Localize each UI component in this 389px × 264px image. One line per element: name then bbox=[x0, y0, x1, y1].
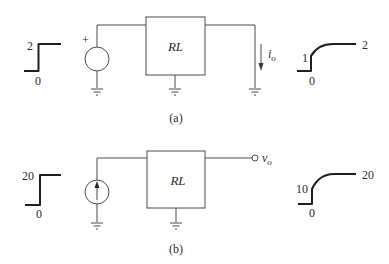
output-initial-label: 10 bbox=[296, 182, 308, 196]
output-final-label: 2 bbox=[362, 38, 368, 52]
input-high-label: 20 bbox=[22, 169, 34, 183]
input-high-label: 2 bbox=[27, 39, 33, 53]
ground-icon bbox=[249, 89, 261, 95]
output-final-label: 20 bbox=[362, 168, 374, 182]
output-zero-label: 0 bbox=[309, 74, 315, 88]
output-initial-label: 1 bbox=[302, 51, 308, 65]
output-waveform-b: 10 0 20 bbox=[296, 168, 374, 220]
input-low-label: 0 bbox=[35, 74, 41, 88]
current-arrow-icon bbox=[259, 44, 264, 71]
rl-block-label: RL bbox=[169, 173, 185, 188]
ground-icon bbox=[91, 89, 103, 95]
circuit-figure: 2 0 + RL bbox=[0, 0, 389, 264]
caption-b: (b) bbox=[169, 242, 183, 256]
arrow-up-icon bbox=[95, 181, 100, 188]
rl-block-label: RL bbox=[167, 39, 183, 54]
ground-icon bbox=[170, 223, 182, 229]
ground-icon bbox=[91, 223, 103, 229]
output-waveform-a: 1 0 2 bbox=[297, 38, 368, 88]
ground-icon bbox=[169, 89, 181, 95]
circuit-a: 2 0 + RL bbox=[24, 17, 368, 125]
polarity-plus-label: + bbox=[82, 33, 89, 47]
voltage-source-icon bbox=[85, 47, 109, 71]
input-waveform-b: 20 0 bbox=[22, 169, 61, 221]
voltage-source: + bbox=[82, 25, 109, 88]
circuit-b: 20 0 RL vo bbox=[22, 151, 374, 256]
caption-a: (a) bbox=[169, 111, 182, 125]
input-waveform-a: 2 0 bbox=[24, 39, 61, 88]
output-current-label: io bbox=[268, 47, 276, 63]
output-wire bbox=[205, 25, 255, 88]
output-terminal-icon bbox=[252, 155, 258, 161]
output-zero-label: 0 bbox=[309, 206, 315, 220]
input-low-label: 0 bbox=[36, 207, 42, 221]
current-source bbox=[85, 158, 109, 222]
output-voltage-label: vo bbox=[262, 151, 272, 167]
